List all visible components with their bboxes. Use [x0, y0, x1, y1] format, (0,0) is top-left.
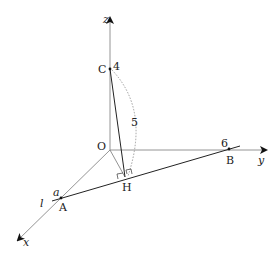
point-C-label: C	[98, 63, 106, 76]
point-B	[228, 148, 231, 151]
right-angle-mark	[117, 173, 123, 179]
point-A	[60, 197, 63, 200]
line-l	[52, 146, 240, 201]
point-A-label: A	[58, 201, 68, 214]
C-value-label: 4	[113, 60, 120, 73]
origin-label: O	[97, 140, 106, 153]
point-H-label: H	[122, 181, 132, 194]
y-axis-label: y	[257, 154, 265, 167]
length-label: 5	[131, 116, 138, 129]
segment-CH	[110, 69, 125, 177]
diagram: z y x O C 4 5 6 B H a A l	[0, 0, 280, 260]
A-value-label: a	[53, 186, 60, 199]
line-l-label: l	[40, 197, 44, 210]
point-B-label: B	[226, 154, 234, 167]
point-C	[109, 68, 112, 71]
x-axis	[18, 150, 110, 240]
B-value-label: 6	[221, 137, 228, 150]
right-angle-mark	[126, 169, 132, 174]
x-axis-label: x	[23, 236, 30, 249]
z-axis-label: z	[102, 13, 109, 26]
